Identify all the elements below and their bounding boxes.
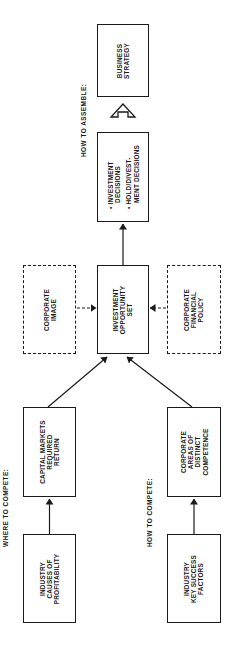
corporate-image-text: CORPORATE IMAGE xyxy=(42,288,56,330)
list-item: • INVESTMENT xyxy=(107,145,114,209)
capital-markets-box: CAPITAL MARKETS REQUIRED RETURN xyxy=(23,407,76,497)
investment-opportunity-set-box: INVESTMENT OPPORTUNITY SET xyxy=(97,265,149,354)
corporate-image-box: CORPORATE IMAGE xyxy=(23,265,76,354)
corporate-financial-policy-box: CORPORATE FINANCIAL POLICY xyxy=(167,265,221,354)
corporate-areas-text: CORPORATE AREAS OF DISTINCT COMPETENCE xyxy=(180,428,209,475)
arrow-capital-to-ios xyxy=(48,357,107,407)
corporate-financial-policy-text: CORPORATE FINANCIAL POLICY xyxy=(183,288,205,330)
investment-opportunity-set-text: INVESTMENT OPPORTUNITY SET xyxy=(112,285,134,333)
hollow-arrow-icon xyxy=(111,104,135,117)
industry-ksf-text: INDUSTRY KEY SUCCESS FACTORS xyxy=(183,555,205,603)
business-strategy-box: BUSINESS STRATEGY xyxy=(97,24,149,97)
business-strategy-text: BUSINESS STRATEGY xyxy=(116,43,130,79)
arrow-areas-to-ios xyxy=(127,357,192,407)
capital-markets-text: CAPITAL MARKETS REQUIRED RETURN xyxy=(39,420,61,483)
decisions-box: • INVESTMENT DECISIONS • HOLD/DIVEST- ME… xyxy=(97,132,149,222)
how-to-compete-label: HOW TO COMPETE: xyxy=(146,478,153,547)
how-to-assemble-label: HOW TO ASSEMBLE: xyxy=(80,84,87,157)
industry-ksf-box: INDUSTRY KEY SUCCESS FACTORS xyxy=(167,534,221,623)
corporate-areas-box: CORPORATE AREAS OF DISTINCT COMPETENCE xyxy=(167,407,221,497)
list-item: • HOLD/DIVEST- xyxy=(125,145,132,209)
industry-causes-text: INDUSTRY CAUSES OF PROFITABILITY xyxy=(39,553,61,603)
decisions-list: • INVESTMENT DECISIONS • HOLD/DIVEST- ME… xyxy=(107,145,140,209)
where-to-compete-label: WHERE TO COMPETE: xyxy=(2,469,9,547)
industry-causes-box: INDUSTRY CAUSES OF PROFITABILITY xyxy=(23,534,76,623)
